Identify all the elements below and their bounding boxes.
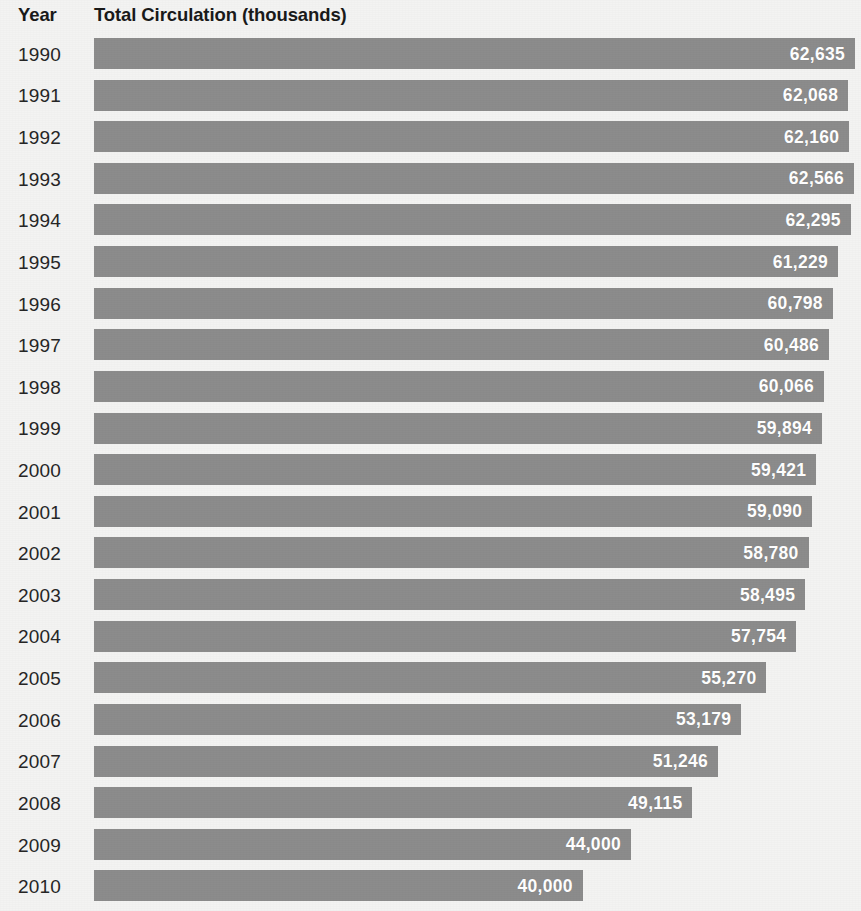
bar-track: 61,229 bbox=[94, 246, 838, 277]
bar-row: 199462,295 bbox=[0, 200, 861, 242]
bar-value-label: 57,754 bbox=[731, 626, 786, 647]
bar-fill bbox=[94, 454, 816, 485]
year-label: 1997 bbox=[18, 335, 61, 357]
bar-row: 199062,635 bbox=[0, 34, 861, 76]
bar-fill bbox=[94, 621, 796, 652]
bar-row: 199262,160 bbox=[0, 117, 861, 159]
bar-value-label: 49,115 bbox=[628, 792, 682, 813]
bar-track: 58,495 bbox=[94, 579, 805, 610]
bar-track: 44,000 bbox=[94, 829, 631, 860]
bar-track: 62,635 bbox=[94, 38, 855, 69]
bar-value-label: 60,486 bbox=[764, 334, 819, 355]
bar-track: 53,179 bbox=[94, 704, 741, 735]
bar-value-label: 55,270 bbox=[701, 667, 756, 688]
bar-value-label: 62,566 bbox=[789, 168, 844, 189]
year-label: 1995 bbox=[18, 252, 61, 274]
bar-value-label: 58,780 bbox=[743, 542, 798, 563]
year-label: 2009 bbox=[18, 835, 61, 857]
bar-track: 59,421 bbox=[94, 454, 816, 485]
bar-track: 62,566 bbox=[94, 163, 854, 194]
bar-track: 58,780 bbox=[94, 537, 809, 568]
bar-fill bbox=[94, 413, 822, 444]
bar-row: 200358,495 bbox=[0, 575, 861, 617]
year-label: 2008 bbox=[18, 793, 61, 815]
bar-fill bbox=[94, 204, 851, 235]
bar-row: 200751,246 bbox=[0, 742, 861, 784]
bar-row: 199959,894 bbox=[0, 409, 861, 451]
bar-value-label: 59,090 bbox=[747, 501, 802, 522]
bar-track: 62,068 bbox=[94, 80, 848, 111]
bar-row: 200653,179 bbox=[0, 700, 861, 742]
circulation-bar-chart: Year Total Circulation (thousands) 19906… bbox=[0, 0, 861, 911]
year-label: 1996 bbox=[18, 294, 61, 316]
bar-row: 199561,229 bbox=[0, 242, 861, 284]
bar-track: 60,486 bbox=[94, 329, 829, 360]
bar-track: 51,246 bbox=[94, 746, 718, 777]
year-label: 1999 bbox=[18, 418, 61, 440]
column-header-total-circulation: Total Circulation (thousands) bbox=[94, 4, 347, 26]
bar-track: 49,115 bbox=[94, 787, 692, 818]
bar-track: 62,295 bbox=[94, 204, 851, 235]
bar-value-label: 62,295 bbox=[786, 209, 841, 230]
year-label: 2001 bbox=[18, 502, 61, 524]
bar-value-label: 60,798 bbox=[768, 293, 823, 314]
year-label: 2010 bbox=[18, 876, 61, 898]
bar-row: 200059,421 bbox=[0, 450, 861, 492]
year-label: 2004 bbox=[18, 626, 61, 648]
chart-plot-area: 199062,635199162,068199262,160199362,566… bbox=[0, 34, 861, 911]
bar-fill bbox=[94, 80, 848, 111]
bar-value-label: 60,066 bbox=[759, 376, 814, 397]
bar-row: 200944,000 bbox=[0, 825, 861, 867]
bar-fill bbox=[94, 537, 809, 568]
bar-row: 200258,780 bbox=[0, 533, 861, 575]
bar-row: 199162,068 bbox=[0, 76, 861, 118]
bar-track: 59,090 bbox=[94, 496, 812, 527]
bar-fill bbox=[94, 496, 812, 527]
year-label: 1998 bbox=[18, 377, 61, 399]
bar-fill bbox=[94, 870, 583, 901]
bar-track: 57,754 bbox=[94, 621, 796, 652]
bar-value-label: 40,000 bbox=[518, 875, 573, 896]
bar-row: 200159,090 bbox=[0, 492, 861, 534]
bar-fill bbox=[94, 38, 855, 69]
bar-track: 60,798 bbox=[94, 288, 833, 319]
bar-track: 59,894 bbox=[94, 413, 822, 444]
bar-fill bbox=[94, 579, 805, 610]
bar-value-label: 53,179 bbox=[676, 709, 731, 730]
bar-fill bbox=[94, 746, 718, 777]
bar-value-label: 62,635 bbox=[790, 43, 845, 64]
column-header-year: Year bbox=[18, 4, 57, 26]
bar-row: 199660,798 bbox=[0, 284, 861, 326]
bar-value-label: 62,068 bbox=[783, 85, 838, 106]
year-label: 1990 bbox=[18, 44, 61, 66]
bar-track: 60,066 bbox=[94, 371, 824, 402]
bar-fill bbox=[94, 829, 631, 860]
year-label: 2006 bbox=[18, 710, 61, 732]
year-label: 2002 bbox=[18, 543, 61, 565]
bar-row: 199760,486 bbox=[0, 325, 861, 367]
bar-row: 200457,754 bbox=[0, 617, 861, 659]
bar-value-label: 58,495 bbox=[740, 584, 795, 605]
bar-value-label: 62,160 bbox=[784, 126, 839, 147]
bar-fill bbox=[94, 246, 838, 277]
year-label: 1994 bbox=[18, 210, 61, 232]
bar-fill bbox=[94, 329, 829, 360]
year-label: 1992 bbox=[18, 127, 61, 149]
bar-row: 200555,270 bbox=[0, 658, 861, 700]
bar-row: 201040,000 bbox=[0, 866, 861, 908]
bar-value-label: 44,000 bbox=[566, 834, 621, 855]
bar-row: 200849,115 bbox=[0, 783, 861, 825]
bar-fill bbox=[94, 288, 833, 319]
year-label: 2000 bbox=[18, 460, 61, 482]
bar-value-label: 59,894 bbox=[757, 418, 812, 439]
bar-fill bbox=[94, 121, 849, 152]
bar-track: 40,000 bbox=[94, 870, 583, 901]
bar-row: 199860,066 bbox=[0, 367, 861, 409]
bar-value-label: 59,421 bbox=[751, 459, 806, 480]
bar-fill bbox=[94, 662, 766, 693]
bar-track: 62,160 bbox=[94, 121, 849, 152]
bar-row: 199362,566 bbox=[0, 159, 861, 201]
bar-fill bbox=[94, 371, 824, 402]
bar-fill bbox=[94, 163, 854, 194]
year-label: 1991 bbox=[18, 85, 61, 107]
